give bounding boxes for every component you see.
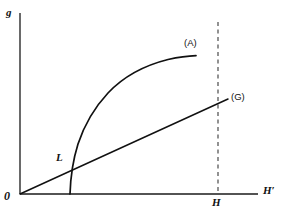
y-axis-label: g bbox=[6, 7, 12, 18]
origin-label: 0 bbox=[4, 190, 10, 202]
plot-svg bbox=[0, 0, 288, 219]
curve-label-a: (A) bbox=[184, 38, 197, 48]
intersection-label-l: L bbox=[56, 152, 63, 163]
x-tick-label-h: H bbox=[212, 197, 221, 208]
figure-canvas: g 0 H′ H L (A) (G) bbox=[0, 0, 288, 219]
curve-series-a bbox=[70, 56, 196, 194]
line-series-g bbox=[20, 99, 228, 194]
x-axis-label: H′ bbox=[263, 185, 275, 196]
curve-label-g: (G) bbox=[231, 92, 245, 102]
